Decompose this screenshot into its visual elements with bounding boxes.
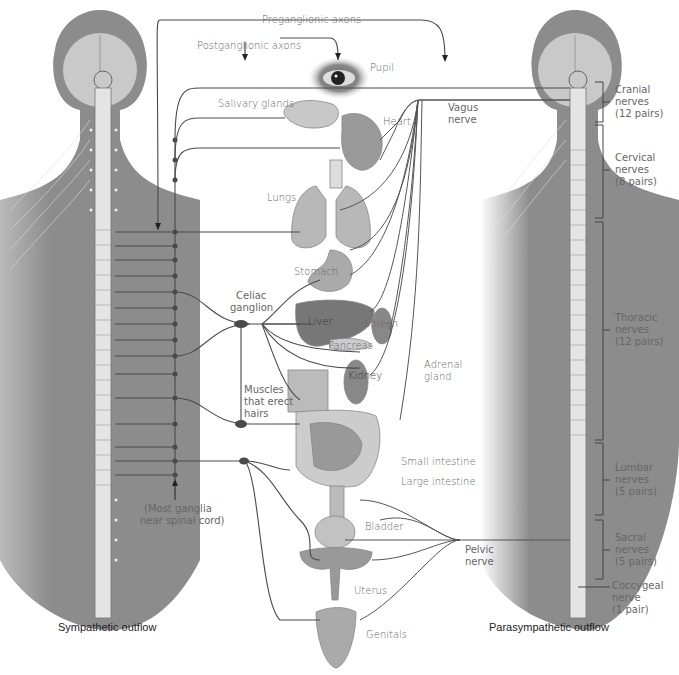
caption-sympathetic-outflow: Sympathetic outflow — [58, 621, 156, 633]
muscles-line-3: hairs — [244, 408, 293, 420]
segment-count: (5 pairs) — [615, 556, 657, 568]
label-pelvic-nerve: Pelvic nerve — [465, 544, 494, 568]
vagus-line-1: Vagus — [448, 102, 478, 114]
organ-illustrations — [284, 101, 392, 669]
label-preganglionic-axons: Preganglionic axons — [262, 14, 361, 26]
segment-type: nerves — [615, 544, 657, 556]
label-small-intestine: Small intestine — [401, 456, 476, 468]
segment-sacral: Sacral nerves (5 pairs) — [615, 532, 657, 568]
label-pancreas: Pancreas — [328, 340, 373, 352]
label-large-intestine: Large intestine — [401, 476, 476, 488]
label-celiac-ganglion: Celiac ganglion — [230, 290, 273, 314]
label-postganglionic-axons: Postganglionic axons — [197, 40, 301, 52]
segment-name: Sacral — [615, 532, 657, 544]
segment-lumbar: Lumbar nerves (5 pairs) — [615, 462, 657, 498]
label-adrenal-gland: Adrenal gland — [424, 359, 464, 383]
label-pupil: Pupil — [370, 62, 394, 74]
segment-type: nerves — [615, 96, 663, 108]
caption-parasympathetic-outflow: Parasympathetic outflow — [489, 621, 609, 633]
segment-name: Thoracic — [615, 312, 663, 324]
segment-count: (12 pairs) — [615, 108, 663, 120]
segment-count: (8 pairs) — [615, 176, 657, 188]
label-uterus: Uterus — [354, 585, 387, 597]
label-adrenal-text: Adrenal gland — [424, 359, 464, 383]
label-heart: Heart — [383, 116, 411, 128]
segment-type: nerves — [615, 324, 663, 336]
celiac-line-2: ganglion — [230, 302, 273, 314]
segment-type: nerves — [615, 164, 657, 176]
label-liver: Liver — [308, 316, 333, 328]
ganglia-note-line-1: (Most ganglia — [140, 503, 224, 515]
ganglia-note-line-2: near spinal cord) — [140, 515, 224, 527]
label-ganglia-note: (Most ganglia near spinal cord) — [140, 503, 224, 527]
celiac-line-1: Celiac — [230, 290, 273, 302]
segment-type: nerves — [615, 474, 657, 486]
label-salivary-glands: Salivary glands — [218, 98, 294, 110]
label-bladder: Bladder — [365, 521, 403, 533]
segment-name: Cranial — [615, 84, 663, 96]
eye-illustration — [307, 56, 371, 100]
label-muscles-erect-hairs: Muscles that erect hairs — [244, 384, 293, 420]
muscles-line-2: that erect — [244, 396, 293, 408]
autonomic-nervous-system-diagram: Preganglionic axons Postganglionic axons… — [0, 0, 679, 675]
label-genitals: Genitals — [366, 629, 407, 641]
label-kidney: Kidney — [348, 370, 382, 382]
segment-name: Cervical — [615, 152, 657, 164]
segment-name: Lumbar — [615, 462, 657, 474]
segment-cranial: Cranial nerves (12 pairs) — [615, 84, 663, 120]
segment-thoracic: Thoracic nerves (12 pairs) — [615, 312, 663, 348]
segment-count: (5 pairs) — [615, 486, 657, 498]
segment-count: (12 pairs) — [615, 336, 663, 348]
label-lungs: Lungs — [267, 192, 296, 204]
segment-count: (1 pair) — [612, 604, 663, 616]
label-stomach: Stomach — [294, 266, 338, 278]
label-spleen: Spleen — [364, 318, 398, 330]
pelvic-line-1: Pelvic — [465, 544, 494, 556]
label-vagus-nerve: Vagus nerve — [448, 102, 478, 126]
muscles-line-1: Muscles — [244, 384, 293, 396]
left-body-figure — [0, 10, 200, 630]
segment-name: Coccygeal — [612, 580, 663, 592]
segment-type: nerve — [612, 592, 663, 604]
vagus-line-2: nerve — [448, 114, 478, 126]
segment-coccygeal: Coccygeal nerve (1 pair) — [612, 580, 663, 616]
pelvic-line-2: nerve — [465, 556, 494, 568]
segment-cervical: Cervical nerves (8 pairs) — [615, 152, 657, 188]
